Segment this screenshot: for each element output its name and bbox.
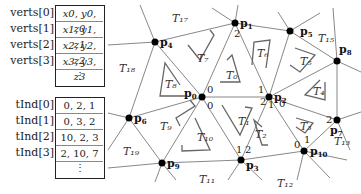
svg-text:p1: p1 [240, 17, 253, 31]
svg-text:p5: p5 [300, 25, 313, 39]
svg-text:p8: p8 [339, 43, 352, 57]
svg-text:p6: p6 [134, 112, 147, 126]
svg-text:0: 0 [207, 84, 213, 95]
svg-text:T₈: T₈ [165, 78, 177, 91]
svg-text:T₅: T₅ [300, 55, 312, 68]
svg-text:T₁₁: T₁₁ [199, 173, 215, 186]
svg-text:T₁₇: T₁₇ [172, 12, 189, 25]
svg-text:p7: p7 [330, 124, 343, 138]
svg-text:p9: p9 [167, 157, 180, 171]
svg-text:p3: p3 [246, 159, 259, 173]
svg-text:p10: p10 [310, 145, 328, 159]
svg-text:T₇: T₇ [197, 52, 209, 65]
svg-text:0: 0 [207, 100, 213, 111]
svg-text:T₉: T₉ [160, 120, 172, 133]
svg-text:T₁₀: T₁₀ [197, 131, 214, 144]
svg-text:1: 1 [258, 84, 264, 95]
triangle-mesh: T₀ T₁ T₂ T₃ T₄ T₅ T₆ T₇ T₈ T₉ T₁₀ T₁₁ T₁… [0, 0, 361, 194]
svg-text:T₁₅: T₁₅ [318, 32, 335, 45]
svg-text:T₆: T₆ [257, 47, 269, 60]
svg-text:p2: p2 [274, 91, 287, 105]
svg-text:T₁₂: T₁₂ [277, 177, 293, 190]
svg-text:2: 2 [245, 144, 251, 155]
svg-text:T₄: T₄ [313, 85, 325, 98]
svg-text:T₁₈: T₁₈ [119, 62, 136, 75]
svg-text:T₀: T₀ [226, 69, 238, 82]
svg-text:2: 2 [260, 96, 266, 107]
svg-text:T₁: T₁ [238, 115, 250, 128]
svg-text:T₂: T₂ [255, 128, 267, 141]
svg-text:1: 1 [304, 134, 310, 145]
svg-text:T₃: T₃ [300, 120, 312, 133]
svg-text:0: 0 [294, 139, 300, 150]
svg-text:T₁₉: T₁₉ [123, 145, 140, 158]
svg-text:1: 1 [236, 144, 242, 155]
